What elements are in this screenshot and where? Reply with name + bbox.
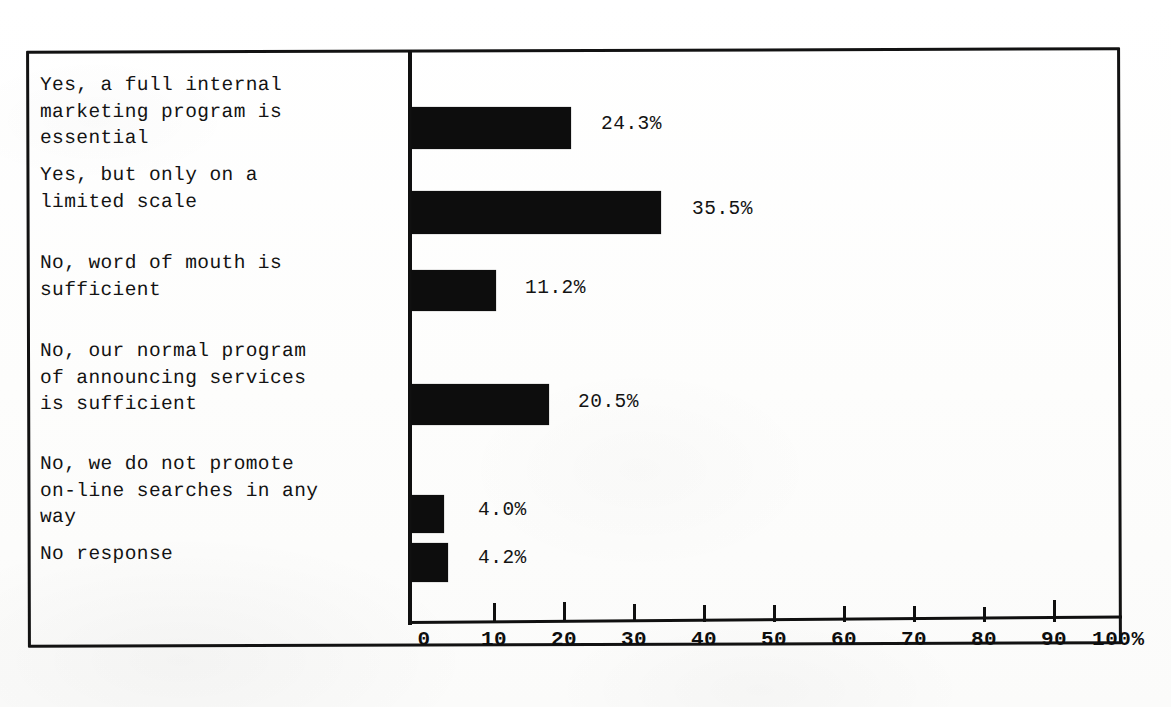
bar-value-5: 4.2% xyxy=(478,547,527,569)
tick-80 xyxy=(983,607,986,622)
bar-value-0: 24.3% xyxy=(601,113,662,135)
tick-label-100: 100% xyxy=(1092,628,1144,651)
tick-label-50: 50 xyxy=(761,628,787,651)
bar-value-3: 20.5% xyxy=(578,391,639,413)
tick-30 xyxy=(633,604,636,622)
bar-value-4: 4.0% xyxy=(478,499,527,521)
tick-label-90: 90 xyxy=(1041,628,1067,651)
category-label-5: No response xyxy=(40,541,173,568)
category-label-1: Yes, but only on a limited scale xyxy=(40,162,258,215)
bar-4 xyxy=(412,495,444,533)
tick-20 xyxy=(563,602,566,622)
tick-60 xyxy=(843,606,846,622)
category-label-0: Yes, a full internal marketing program i… xyxy=(40,72,282,152)
tick-40 xyxy=(703,605,706,622)
tick-label-60: 60 xyxy=(831,628,857,651)
tick-10 xyxy=(493,603,496,622)
category-label-2: No, word of mouth is sufficient xyxy=(40,250,282,303)
tick-label-30: 30 xyxy=(621,628,647,651)
bar-value-2: 11.2% xyxy=(525,277,586,299)
tick-label-40: 40 xyxy=(691,628,717,651)
tick-label-20: 20 xyxy=(551,628,577,651)
category-label-4: No, we do not promote on-line searches i… xyxy=(40,451,318,531)
bar-chart-figure: Yes, a full internal marketing program i… xyxy=(0,0,1171,707)
bar-0 xyxy=(412,107,571,149)
value-axis-ticks xyxy=(0,596,1171,622)
bar-1 xyxy=(412,191,661,234)
tick-label-10: 10 xyxy=(481,628,507,651)
tick-label-70: 70 xyxy=(901,628,927,651)
category-label-panel: Yes, a full internal marketing program i… xyxy=(40,62,400,622)
tick-label-0: 0 xyxy=(417,628,430,651)
tick-50 xyxy=(773,605,776,622)
category-label-3: No, our normal program of announcing ser… xyxy=(40,338,306,418)
bar-3 xyxy=(412,384,549,425)
bar-2 xyxy=(412,270,496,311)
bar-value-1: 35.5% xyxy=(692,198,753,220)
tick-90 xyxy=(1053,600,1056,622)
bar-5 xyxy=(412,543,448,582)
tick-label-80: 80 xyxy=(971,628,997,651)
tick-70 xyxy=(913,606,916,622)
